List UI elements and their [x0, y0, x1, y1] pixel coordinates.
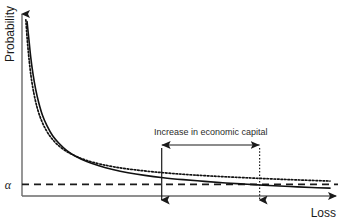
figure-canvas: Probability Loss α Increase in economic …	[0, 0, 348, 222]
increase-in-economic-capital-label: Increase in economic capital	[154, 127, 268, 137]
loss-curve-base	[27, 22, 330, 189]
x-axis-title: Loss	[311, 206, 336, 220]
alpha-threshold-label: α	[5, 178, 12, 192]
loss-curve-fat-tail	[26, 20, 330, 181]
y-axis-title: Probability	[3, 6, 17, 62]
loss-distribution-chart: Probability Loss α Increase in economic …	[0, 0, 348, 222]
axis-group	[22, 14, 336, 196]
